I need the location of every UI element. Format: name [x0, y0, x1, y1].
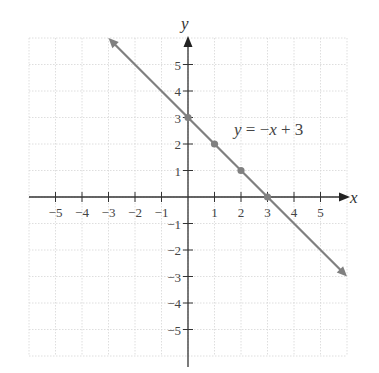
y-tick-label: −4 [167, 296, 181, 311]
y-tick-label: 2 [175, 137, 182, 152]
x-axis-label: x [349, 188, 358, 207]
x-tick-label: 3 [264, 205, 271, 220]
x-tick-label: 2 [238, 205, 245, 220]
equation-plus-3: + 3 [277, 120, 304, 139]
x-tick-label: 4 [291, 205, 298, 220]
equation-y: y [232, 120, 242, 139]
axes [29, 36, 350, 367]
y-tick-label: −5 [167, 323, 181, 338]
data-point [211, 140, 218, 147]
x-tick-label: −2 [128, 205, 142, 220]
y-tick-label: 1 [175, 164, 182, 179]
x-tick-label: −5 [49, 205, 63, 220]
y-tick-label: −2 [167, 243, 181, 258]
x-axis-arrow-icon [339, 193, 350, 202]
equation-label: y = −x + 3 [232, 120, 303, 139]
equation-equals-minus: = − [242, 120, 270, 139]
y-axis-label: y [179, 14, 189, 33]
x-tick-label: 1 [211, 205, 218, 220]
y-tick-label: −3 [167, 270, 181, 285]
coordinate-plane: −5−4−3−2−112345−5−4−3−2−112345 x y y = −… [0, 0, 379, 373]
x-tick-label: −4 [75, 205, 89, 220]
data-point [237, 167, 244, 174]
x-tick-label: 5 [317, 205, 324, 220]
series-line [114, 44, 341, 271]
y-tick-label: 5 [175, 58, 182, 73]
data-point [264, 193, 271, 200]
line-series [109, 38, 348, 277]
y-tick-label: 3 [175, 111, 182, 126]
x-tick-label: −3 [102, 205, 116, 220]
y-tick-label: 4 [175, 84, 182, 99]
y-tick-label: −1 [167, 217, 181, 232]
data-point [184, 114, 191, 121]
